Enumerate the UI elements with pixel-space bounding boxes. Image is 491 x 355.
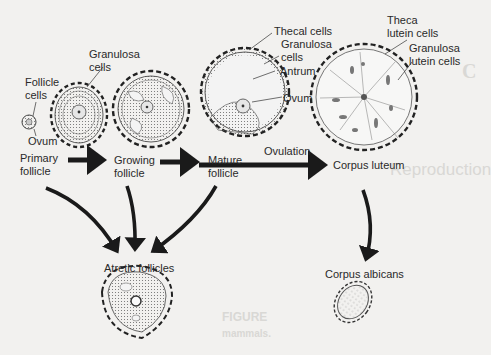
label-granulosa-cells-2: cells (89, 61, 111, 73)
label-primary-follicle-2: follicle (20, 165, 51, 177)
label-theca-lutein-2: lutein cells (387, 27, 438, 39)
label-ovum-mature: Ovum (283, 92, 312, 104)
label-ovulation: Ovulation (264, 145, 310, 157)
label-atretic-follicles: Atretic follicles (104, 262, 174, 274)
primary-follicle-icon (22, 115, 36, 129)
corpus-albicans-icon (326, 274, 379, 330)
arrow-primary-to-atretic (46, 188, 117, 251)
label-ovum-primary: Ovum (28, 135, 57, 147)
label-mature-follicle-1: Mature (208, 154, 242, 166)
label-granulosa-lutein-2: lutein cells (409, 55, 460, 67)
mature-follicle-icon (201, 48, 289, 136)
corpus-luteum-icon (311, 44, 417, 150)
label-mature-follicle-2: follicle (208, 167, 239, 179)
label-growing-follicle-2: follicle (114, 167, 145, 179)
label-granulosa-mature-2: cells (281, 51, 303, 63)
label-theca-lutein-1: Theca (387, 14, 418, 26)
label-growing-follicle-1: Growing (114, 154, 155, 166)
label-granulosa-cells-1: Granulosa (89, 48, 140, 60)
label-granulosa-lutein-1: Granulosa (409, 42, 460, 54)
arrow-mature-to-atretic (153, 186, 216, 251)
atretic-follicle-icon (102, 266, 172, 338)
label-corpus-albicans: Corpus albicans (325, 268, 404, 280)
early-growing-follicle-icon (51, 83, 107, 147)
label-granulosa-mature-1: Granulosa (281, 38, 332, 50)
growing-follicle-icon (113, 71, 189, 147)
arrow-growing-to-atretic (127, 186, 135, 249)
label-antrum: Antrum (280, 65, 315, 77)
label-corpus-luteum: Corpus luteum (333, 159, 405, 171)
arrow-corpus-luteum-to-albicans (363, 190, 370, 259)
label-primary-follicle-1: Primary (20, 152, 58, 164)
label-follicle-cells-1: Follicle (25, 76, 59, 88)
label-follicle-cells-2: cells (25, 89, 47, 101)
label-thecal-cells: Thecal cells (274, 25, 332, 37)
